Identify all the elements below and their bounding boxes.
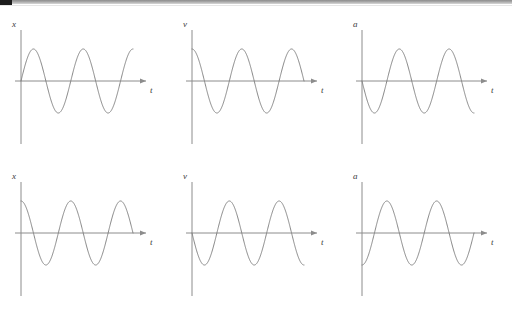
x-axis-label: t: [491, 238, 494, 247]
top-bar-light-segment: [12, 0, 512, 4]
x-axis-label: t: [150, 238, 153, 247]
graph-bottom-left: [0, 162, 172, 314]
graph-top-middle: [171, 10, 343, 162]
y-axis-label: a: [353, 20, 358, 29]
x-axis-arrow-icon: [140, 78, 146, 83]
graph-cell-top-right: a t: [341, 10, 512, 162]
x-axis-label: t: [150, 86, 153, 95]
x-axis-label: t: [321, 86, 324, 95]
y-axis-label: v: [183, 20, 187, 29]
x-axis-label: t: [491, 86, 494, 95]
x-axis-arrow-icon: [481, 230, 487, 235]
graph-bottom-right: [341, 162, 512, 314]
y-axis-label: a: [353, 172, 358, 181]
graph-cell-top-left: x t: [0, 10, 172, 162]
graph-cell-top-middle: v t: [171, 10, 343, 162]
graph-cell-bottom-middle: v t: [171, 162, 343, 314]
x-axis-arrow-icon: [311, 230, 317, 235]
y-axis-label: x: [12, 20, 16, 29]
graph-cell-bottom-left: x t: [0, 162, 172, 314]
graph-grid: x t v t a t x t v t a t: [0, 6, 512, 318]
x-axis-arrow-icon: [140, 230, 146, 235]
graph-bottom-middle: [171, 162, 343, 314]
y-axis-label: x: [12, 172, 16, 181]
x-axis-arrow-icon: [311, 78, 317, 83]
x-axis-label: t: [321, 238, 324, 247]
x-axis-arrow-icon: [481, 78, 487, 83]
y-axis-label: v: [183, 172, 187, 181]
graph-cell-bottom-right: a t: [341, 162, 512, 314]
graph-top-left: [0, 10, 172, 162]
graph-top-right: [341, 10, 512, 162]
